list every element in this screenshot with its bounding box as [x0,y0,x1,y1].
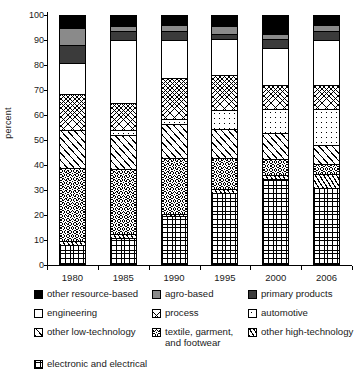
bar-segment[interactable] [59,94,86,130]
solid-black-swatch [34,290,43,299]
bar-segment[interactable] [211,26,238,34]
bar-segment[interactable] [110,130,137,135]
x-tick-mark [200,266,201,270]
bar-segment[interactable] [262,179,289,265]
bar-segment[interactable] [110,234,137,238]
bar-segment[interactable] [262,48,289,86]
bar-segment[interactable] [313,109,340,145]
legend-item[interactable]: other resource-based [34,288,138,299]
checker-grid-swatch [34,360,43,369]
bar-segment[interactable] [110,31,137,40]
solid-gray-swatch [152,290,161,299]
bar-segment[interactable] [262,34,289,39]
bar-segment[interactable] [313,85,340,109]
bar-segment[interactable] [59,15,86,28]
legend-item[interactable]: engineering [34,307,97,318]
bar-segment[interactable] [262,133,289,159]
bar-segment[interactable] [161,25,188,31]
bar-segment[interactable] [211,193,238,266]
bar-segment[interactable] [262,159,289,175]
bar-segment[interactable] [313,164,340,174]
bar-group [98,15,149,265]
bar-segment[interactable] [59,130,86,168]
stacked-bar[interactable] [59,15,86,265]
bar-segment[interactable] [161,78,188,119]
bar-segment[interactable] [313,188,340,266]
bar-segment[interactable] [211,129,238,158]
bar-segment[interactable] [110,40,137,103]
bar-segment[interactable] [161,214,188,217]
bar-segment[interactable] [313,174,340,188]
legend-item-label: automotive [261,307,308,318]
legend-item[interactable]: process [152,307,199,318]
bar-segment[interactable] [262,85,289,109]
bar-segment[interactable] [262,175,289,179]
bar-segment[interactable] [313,25,340,31]
bar-segment[interactable] [161,31,188,40]
bar-segment[interactable] [110,26,137,31]
bar-segment[interactable] [161,124,188,158]
legend-item-label: electronic and electrical [47,358,147,369]
bar-segment[interactable] [313,145,340,164]
legend-item[interactable]: electronic and electrical [34,358,147,369]
bar-segment[interactable] [211,110,238,129]
y-axis-ticks: 1009080706050403020100 [14,0,44,285]
y-tick-label: 100 [18,11,44,20]
stacked-bar[interactable] [110,15,137,265]
legend-item[interactable]: other high-technology [248,326,353,337]
bar-segment[interactable] [110,103,137,131]
bar-segment[interactable] [211,189,238,193]
y-tick-label: 80 [18,61,44,70]
chart-legend: other resource-basedagro-basedprimary pr… [0,286,360,385]
bar-segment[interactable] [211,39,238,75]
bar-segment[interactable] [110,238,137,266]
bar-segment[interactable] [110,169,137,234]
bar-segment[interactable] [161,15,188,25]
stacked-bar[interactable] [313,15,340,265]
stacked-bar[interactable] [211,15,238,265]
bar-segment[interactable] [313,31,340,40]
bar-segment[interactable] [211,75,238,110]
legend-item-label: other resource-based [47,288,138,299]
bar-group [149,15,200,265]
legend-item[interactable]: textile, garment, and footwear [152,326,233,348]
bar-segment[interactable] [313,40,340,85]
bar-segment[interactable] [262,109,289,133]
legend-item[interactable]: agro-based [152,288,214,299]
bar-segment[interactable] [59,28,86,46]
legend-item[interactable]: other low-technology [34,326,136,337]
bar-segment[interactable] [211,15,238,26]
y-tick-label: 40 [18,161,44,170]
bar-segment[interactable] [313,15,340,25]
bar-segment[interactable] [262,15,289,34]
bar-segment[interactable] [211,34,238,39]
bar-segment[interactable] [110,15,137,26]
plot-area: percent 1009080706050403020100 198019851… [0,0,360,285]
bar-segment[interactable] [211,158,238,189]
chart-root: percent 1009080706050403020100 198019851… [0,0,360,385]
y-tick-label: 50 [18,136,44,145]
bar-segment[interactable] [161,158,188,214]
x-tick-mark [301,266,302,270]
x-tick-label: 1985 [103,272,143,283]
stacked-bar[interactable] [161,15,188,265]
bar-segment[interactable] [161,40,188,78]
bar-segment[interactable] [110,135,137,169]
bar-segment[interactable] [262,39,289,48]
x-tick-mark [250,266,251,270]
bar-segment[interactable] [59,168,86,242]
stacked-bar[interactable] [262,15,289,265]
legend-item[interactable]: primary products [248,288,332,299]
x-tick-label: 2000 [256,272,296,283]
bar-segment[interactable] [59,63,86,94]
bar-segment[interactable] [161,119,188,124]
bar-segment[interactable] [59,241,86,245]
bar-segment[interactable] [59,245,86,265]
bar-group [200,15,251,265]
bar-segment[interactable] [59,45,86,63]
legend-item-label: other low-technology [47,326,136,337]
bar-segment[interactable] [161,216,188,265]
legend-item[interactable]: automotive [248,307,308,318]
legend-item-label: primary products [261,288,332,299]
legend-item-label: agro-based [165,288,214,299]
